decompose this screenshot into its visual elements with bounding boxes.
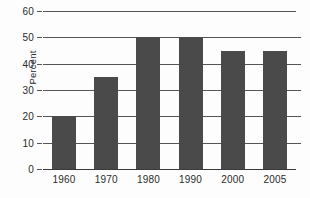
y-tick-mark-right	[296, 143, 301, 144]
y-tick-label: 30	[22, 85, 34, 96]
bar	[179, 37, 203, 169]
axis-baseline: 0	[43, 169, 296, 170]
bar-chart-figure: Percent 0102030405060 196019701980199020…	[0, 0, 310, 198]
y-tick-mark-left	[37, 64, 42, 65]
x-tick-label: 1970	[95, 174, 118, 185]
gridline: 30	[43, 90, 296, 91]
gridline: 50	[43, 37, 296, 38]
y-tick-mark-left	[37, 143, 42, 144]
bar	[136, 37, 160, 169]
y-tick-mark-left	[37, 116, 42, 117]
y-tick-label: 0	[28, 164, 34, 175]
y-tick-label: 20	[22, 111, 34, 122]
bar	[94, 77, 118, 169]
gridline: 10	[43, 143, 296, 144]
bar	[52, 116, 76, 169]
y-tick-label: 60	[22, 6, 34, 17]
bar	[221, 51, 245, 170]
x-tick-label: 1990	[179, 174, 202, 185]
y-tick-label: 50	[22, 32, 34, 43]
y-tick-label: 10	[22, 137, 34, 148]
y-tick-mark-right	[296, 37, 301, 38]
x-tick-label: 2005	[263, 174, 286, 185]
plot-area: 0102030405060 196019701980199020002005	[43, 11, 296, 169]
gridline: 20	[43, 116, 296, 117]
y-tick-mark-right	[296, 90, 301, 91]
y-tick-mark-left	[37, 90, 42, 91]
x-tick-label: 1980	[137, 174, 160, 185]
y-tick-mark-left	[37, 11, 42, 12]
y-tick-label: 40	[22, 58, 34, 69]
gridline: 60	[43, 11, 296, 12]
x-tick-label: 2000	[221, 174, 244, 185]
y-tick-mark-left	[37, 169, 42, 170]
x-tick-label: 1960	[53, 174, 76, 185]
y-tick-mark-right	[296, 116, 301, 117]
gridline: 40	[43, 64, 296, 65]
y-tick-mark-left	[37, 37, 42, 38]
bar	[263, 51, 287, 170]
y-tick-mark-right	[296, 64, 301, 65]
